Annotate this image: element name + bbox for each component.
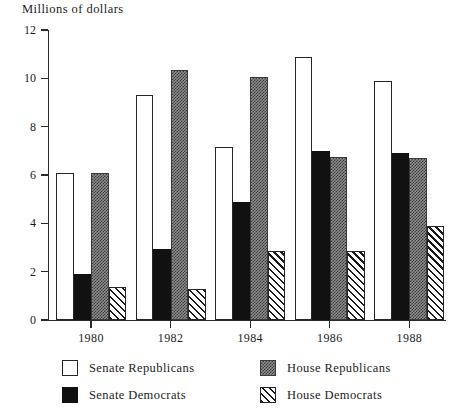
bar-senate-republicans-1982 — [136, 95, 154, 320]
bar-senate-republicans-1984 — [215, 147, 233, 320]
bar-house-republicans-1982 — [171, 70, 189, 320]
y-axis-tick — [41, 223, 48, 224]
y-axis-tick-label-wrap: 0 — [6, 314, 36, 326]
legend-entry-house-republicans: House Republicans — [260, 357, 391, 379]
bar-house-republicans-1984 — [250, 77, 268, 320]
y-axis-tick — [41, 78, 48, 79]
bar-house-republicans-1988 — [409, 158, 427, 320]
y-axis-tick-label-wrap: 8 — [6, 121, 36, 133]
x-axis-tick — [250, 321, 251, 328]
plot-area — [48, 30, 446, 320]
bar-senate-democrats-1984 — [233, 202, 251, 320]
y-axis-tick-label: 2 — [10, 266, 36, 278]
legend-entry-house-democrats: House Democrats — [260, 384, 382, 406]
chart-axis-title: Millions of dollars — [22, 2, 124, 17]
x-axis-tick — [170, 321, 171, 328]
bar-senate-democrats-1988 — [392, 153, 410, 320]
legend-label: House Republicans — [287, 360, 391, 376]
x-axis-tick-label-1980: 1980 — [61, 331, 121, 345]
y-axis-tick — [41, 271, 48, 272]
legend-entry-senate-democrats: Senate Democrats — [62, 384, 186, 406]
bar-house-democrats-1980 — [109, 287, 127, 320]
y-axis-tick-label: 0 — [10, 314, 36, 326]
bar-senate-democrats-1986 — [312, 151, 330, 320]
bar-chart-figure: Millions of dollars 024681012 1980198219… — [0, 0, 460, 419]
bar-senate-democrats-1982 — [153, 249, 171, 320]
bar-house-democrats-1988 — [427, 226, 445, 320]
y-axis-tick — [41, 126, 48, 127]
bar-house-democrats-1982 — [188, 289, 206, 320]
x-axis-tick-label-1984: 1984 — [220, 331, 280, 345]
y-axis-tick-label: 4 — [10, 217, 36, 229]
x-axis-tick — [329, 321, 330, 328]
x-axis-tick-label-1982: 1982 — [141, 331, 201, 345]
bar-house-republicans-1980 — [91, 173, 109, 320]
legend-label: Senate Democrats — [89, 387, 186, 403]
legend-label: House Democrats — [287, 387, 382, 403]
x-axis-tick — [409, 321, 410, 328]
y-axis-tick-label-wrap: 10 — [6, 72, 36, 84]
bar-senate-republicans-1980 — [56, 173, 74, 320]
x-axis-line — [48, 320, 446, 321]
x-axis-tick — [90, 321, 91, 328]
y-axis-tick — [41, 319, 48, 320]
y-axis-tick-label-wrap: 6 — [6, 169, 36, 181]
legend-swatch-senate-democrats-icon — [62, 387, 78, 403]
chart-legend: Senate RepublicansHouse RepublicansSenat… — [62, 357, 442, 409]
legend-swatch-house-republicans-icon — [260, 360, 276, 376]
y-axis-tick — [41, 174, 48, 175]
bar-senate-republicans-1986 — [295, 57, 313, 320]
bar-house-democrats-1984 — [268, 251, 286, 320]
y-axis-tick-label: 10 — [10, 72, 36, 84]
bar-senate-democrats-1980 — [74, 274, 92, 320]
y-axis-tick — [41, 29, 48, 30]
y-axis-tick-label-wrap: 2 — [6, 266, 36, 278]
legend-entry-senate-republicans: Senate Republicans — [62, 357, 194, 379]
legend-swatch-senate-republicans-icon — [62, 360, 78, 376]
x-axis-tick-label-1986: 1986 — [300, 331, 360, 345]
bar-house-republicans-1986 — [330, 157, 348, 320]
y-axis-tick-label: 8 — [10, 121, 36, 133]
bar-senate-republicans-1988 — [374, 81, 392, 320]
bar-house-democrats-1986 — [347, 251, 365, 320]
y-axis-tick-label-wrap: 12 — [6, 24, 36, 36]
y-axis-tick-label-wrap: 4 — [6, 217, 36, 229]
x-axis-tick-label-1988: 1988 — [379, 331, 439, 345]
legend-swatch-house-democrats-icon — [260, 387, 276, 403]
y-axis-tick-label: 6 — [10, 169, 36, 181]
y-axis-tick-label: 12 — [10, 24, 36, 36]
legend-label: Senate Republicans — [89, 360, 194, 376]
